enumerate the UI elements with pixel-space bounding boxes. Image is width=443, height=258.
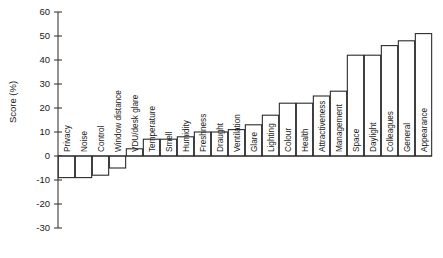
- category-label: Privacy: [63, 124, 72, 152]
- y-axis-tick-label: -10: [36, 174, 50, 185]
- category-label: Smell: [165, 131, 174, 152]
- y-axis-tick-label: 10: [39, 126, 50, 137]
- category-label: Temperature: [148, 106, 157, 152]
- bar-window-distance: [109, 156, 125, 168]
- category-label: Lighting: [267, 123, 276, 152]
- y-axis-title: Score (%): [7, 81, 18, 123]
- y-axis-tick-label: 30: [39, 78, 50, 89]
- category-label: Appearance: [420, 107, 429, 152]
- y-axis-tick-label: -30: [36, 222, 50, 233]
- y-axis-tick-label: 50: [39, 30, 50, 41]
- y-axis-tick-label: 40: [39, 54, 50, 65]
- bar-privacy: [58, 156, 74, 178]
- category-label: Colour: [284, 128, 293, 152]
- figure-caption: [4, 247, 443, 258]
- category-label: Colleagues: [386, 111, 395, 152]
- category-label: Control: [97, 125, 106, 152]
- category-label: Freshness: [199, 114, 208, 152]
- y-axis-tick-label: -20: [36, 198, 50, 209]
- category-label: Health: [301, 128, 310, 152]
- y-axis-tick-label: 0: [45, 150, 50, 161]
- category-label: General: [403, 123, 412, 152]
- category-label: VDU/desk glare: [131, 94, 140, 152]
- category-label: Noise: [80, 131, 89, 152]
- y-axis-tick-label: 20: [39, 102, 50, 113]
- category-label: Draught: [216, 122, 225, 152]
- category-label: Management: [335, 103, 344, 152]
- category-label: Ventilation: [233, 114, 242, 152]
- category-label: Space: [352, 128, 361, 152]
- bar-noise: [75, 156, 91, 178]
- category-label: Glare: [250, 132, 259, 152]
- bar-control: [92, 156, 108, 175]
- chart-canvas: 6050403020100-10-20-30Score (%)PrivacyNo…: [0, 0, 443, 258]
- bar-chart: 6050403020100-10-20-30Score (%)PrivacyNo…: [0, 0, 443, 258]
- y-axis-tick-label: 60: [39, 6, 50, 17]
- category-label: Daylight: [369, 122, 378, 152]
- category-label: Attractiveness: [318, 101, 327, 152]
- category-label: Window distance: [114, 90, 123, 152]
- category-label: Humidity: [182, 119, 191, 152]
